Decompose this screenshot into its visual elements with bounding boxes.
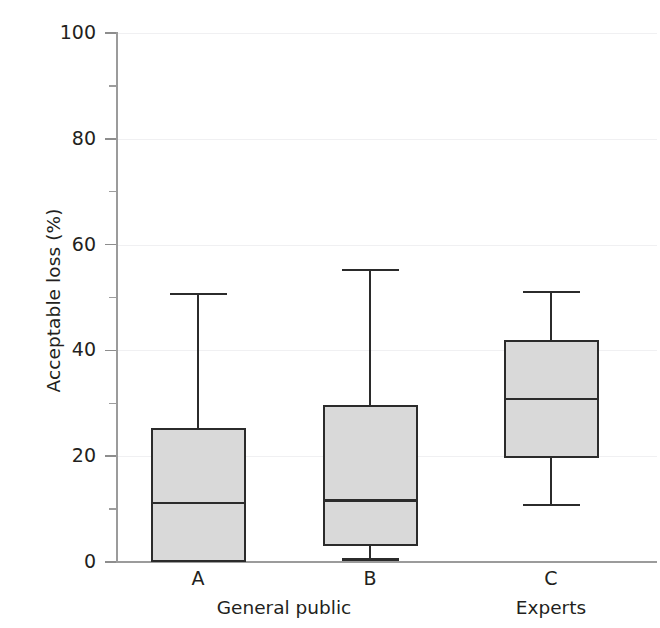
x-axis-tick-label: A: [158, 568, 238, 589]
upper-whisker-cap: [170, 293, 227, 295]
x-axis-tick-label: C: [511, 568, 591, 589]
upper-whisker-cap: [523, 291, 580, 293]
median-line: [504, 398, 599, 400]
y-axis-line: [116, 32, 118, 563]
median-line: [151, 502, 246, 504]
upper-whisker-stem: [550, 292, 552, 340]
y-axis-tick-label: 0: [36, 552, 96, 571]
gridline: [117, 139, 657, 140]
lower-whisker-stem: [550, 458, 552, 505]
y-axis-tick-label: 80: [36, 129, 96, 148]
upper-whisker-cap: [342, 269, 399, 271]
box-iqr-rect: [323, 405, 418, 546]
y-axis-tick-label: 20: [36, 446, 96, 465]
lower-whisker-cap: [342, 558, 399, 560]
upper-whisker-stem: [197, 294, 199, 427]
x-axis-tick-label: B: [330, 568, 410, 589]
x-axis-group-label: Experts: [431, 598, 660, 618]
lower-whisker-cap: [523, 504, 580, 506]
upper-whisker-stem: [369, 270, 371, 406]
box-plot-chart: Acceptable loss (%) 020406080100 ABC Gen…: [0, 0, 660, 628]
box-iqr-rect: [151, 428, 246, 562]
y-axis-title: Acceptable loss (%): [43, 151, 64, 451]
gridline: [117, 245, 657, 246]
median-line: [323, 499, 418, 501]
y-axis-tick-label: 100: [36, 23, 96, 42]
y-axis-tick-label: 60: [36, 235, 96, 254]
x-axis-group-label: General public: [164, 598, 404, 618]
y-axis-tick-label: 40: [36, 340, 96, 359]
gridline: [117, 33, 657, 34]
lower-whisker-stem: [369, 546, 371, 559]
